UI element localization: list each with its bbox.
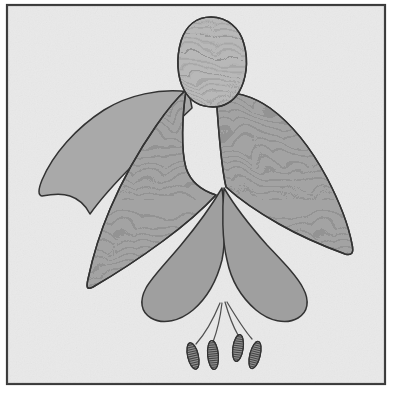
illustration-stage xyxy=(0,0,394,396)
artboard xyxy=(0,0,394,396)
fuchsia-flower-illustration xyxy=(0,0,394,396)
overlay-grain xyxy=(7,5,385,384)
